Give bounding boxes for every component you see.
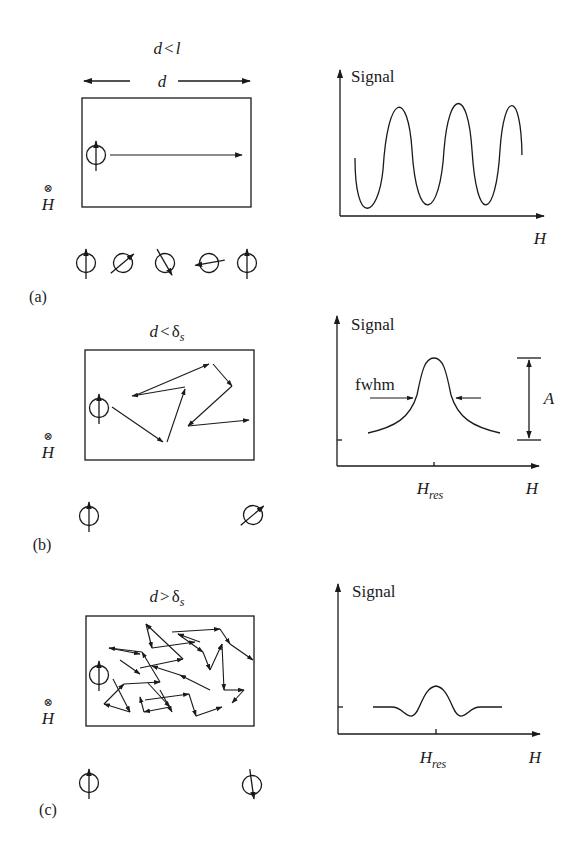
sample-box-c (86, 616, 254, 726)
y-axis-label: Signal (351, 315, 395, 334)
x-axis-label: H (533, 229, 548, 248)
hres-label: Hres (416, 479, 444, 502)
panel-label-c: (c) (39, 801, 57, 819)
panel-label-a: (a) (29, 288, 47, 306)
spin-icon (90, 394, 109, 424)
panel-label-b: (b) (33, 536, 52, 554)
spin-icon (87, 141, 106, 171)
dimension-label: d (158, 72, 167, 91)
oscillating-signal-curve (355, 104, 522, 209)
spin-icon (235, 499, 270, 533)
panel-c: d>δs (39, 582, 543, 819)
field-into-page-icon: ⊗ (43, 696, 52, 708)
spin-icon (77, 249, 96, 279)
sample-box-b (85, 350, 254, 460)
x-axis-label: H (525, 479, 540, 498)
spin-icon (90, 661, 109, 691)
hres-label: Hres (419, 748, 447, 771)
spin-icon (238, 249, 257, 279)
panel-a: d<l d ⊗ H (a) Signal H (29, 39, 548, 306)
sample-box-a (82, 98, 251, 207)
cesr-diagram: d<l d ⊗ H (a) Signal H d<δs (0, 0, 573, 842)
field-label: H (41, 195, 56, 214)
condition-b: d<δs (150, 322, 185, 344)
spin-icon (80, 502, 99, 532)
y-axis-label: Signal (351, 67, 395, 86)
spin-icon (194, 251, 227, 275)
condition-a: d<l (154, 39, 181, 58)
weak-resonance-curve (373, 686, 502, 716)
fwhm-label: fwhm (355, 375, 395, 394)
spin-icon (105, 247, 140, 281)
amplitude-label: A (543, 389, 555, 408)
panel-b: d<δs ⊗ H (b) Signal H Hres fwhm (33, 315, 555, 554)
spin-icon (80, 769, 99, 799)
x-axis-label: H (528, 748, 543, 767)
y-axis-label: Signal (352, 582, 396, 601)
field-into-page-icon: ⊗ (43, 182, 52, 194)
field-label: H (41, 709, 56, 728)
diffusive-path (112, 364, 249, 442)
random-diffusive-path (104, 624, 253, 716)
spin-icon (240, 768, 263, 800)
field-into-page-icon: ⊗ (43, 430, 52, 442)
spin-icon (149, 244, 180, 279)
condition-c: d>δs (150, 587, 185, 609)
resonance-peak-curve (368, 358, 500, 433)
field-label: H (41, 443, 56, 462)
